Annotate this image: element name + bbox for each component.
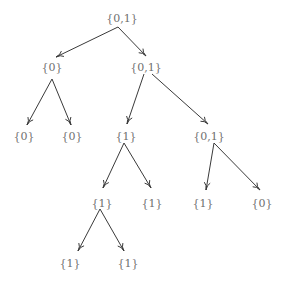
tree-edge-n5-n8: [124, 143, 151, 188]
tree-edge-n6-n10: [214, 143, 260, 190]
tree-node-l1-left: {0}: [42, 62, 63, 73]
tree-edge-n0-n2: [118, 27, 146, 56]
tree-edge-n7-n11: [78, 209, 100, 251]
tree-edge-n0-n1: [56, 27, 118, 57]
tree-edges: [0, 0, 284, 286]
tree-node-root: {0,1}: [106, 13, 138, 24]
tree-node-l2-b: {0}: [62, 131, 83, 142]
tree-node-l2-a: {0}: [14, 131, 35, 142]
tree-node-l4-b: {1}: [118, 258, 139, 269]
tree-edge-n5-n7: [103, 143, 124, 188]
arrowhead-icon: [145, 180, 151, 188]
arrowhead-icon: [118, 243, 124, 251]
tree-node-l3-b: {1}: [142, 198, 163, 209]
tree-node-l4-a: {1}: [60, 258, 81, 269]
tree-node-l3-a: {1}: [92, 198, 113, 209]
arrowhead-icon: [27, 117, 33, 125]
tree-node-l2-c: {1}: [116, 131, 137, 142]
tree-edge-n2-n5: [127, 74, 144, 124]
tree-edge-n1-n3: [27, 79, 52, 125]
tree-node-l2-d: {0,1}: [193, 131, 225, 142]
tree-edge-n2-n6: [152, 74, 208, 124]
tree-edge-n7-n12: [100, 209, 124, 251]
tree-edge-n1-n4: [52, 79, 71, 125]
tree-node-l3-c: {1}: [193, 198, 214, 209]
tree-node-l1-right: {0,1}: [130, 62, 162, 73]
tree-node-l3-d: {0}: [252, 198, 273, 209]
